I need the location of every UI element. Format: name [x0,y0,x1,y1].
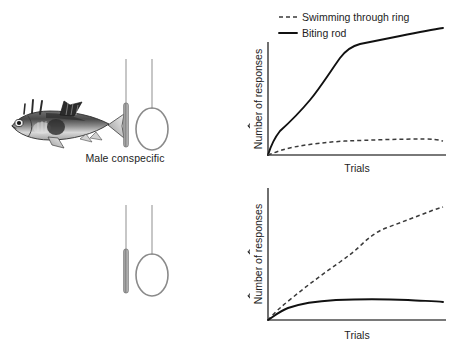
chart-female-conspecific: Trials Number of responses [250,180,450,360]
panel-female-conspecific: Female conspecific [0,180,250,360]
chart-axes [268,42,446,155]
chart-ylabel: Number of responses [252,204,264,304]
apparatus-rod-and-ring [124,59,168,150]
series-swimming-through-ring [268,207,443,320]
illustration-female [0,180,250,360]
chart-xlabel: Trials [344,329,369,341]
legend-label-dashed: Swimming through ring [302,11,410,23]
apparatus-rod-and-ring [124,205,168,296]
series-biting-rod [268,299,443,320]
chart-ylabel: Number of responses [252,49,264,149]
panel-caption-male: Male conspecific [0,152,250,164]
chart-legend: Swimming through ring Biting rod [279,11,410,39]
chart-male-conspecific: Swimming through ring Biting rod Trials … [250,0,450,180]
legend-label-solid: Biting rod [302,27,347,39]
panel-male-conspecific: Male conspecific [0,0,250,180]
series-swimming-through-ring [268,139,443,155]
fish-left-facing [12,100,124,148]
chart-xlabel: Trials [344,162,369,174]
figure-root: Male conspecific Female conspecific S [0,0,450,360]
series-biting-rod [268,28,443,155]
